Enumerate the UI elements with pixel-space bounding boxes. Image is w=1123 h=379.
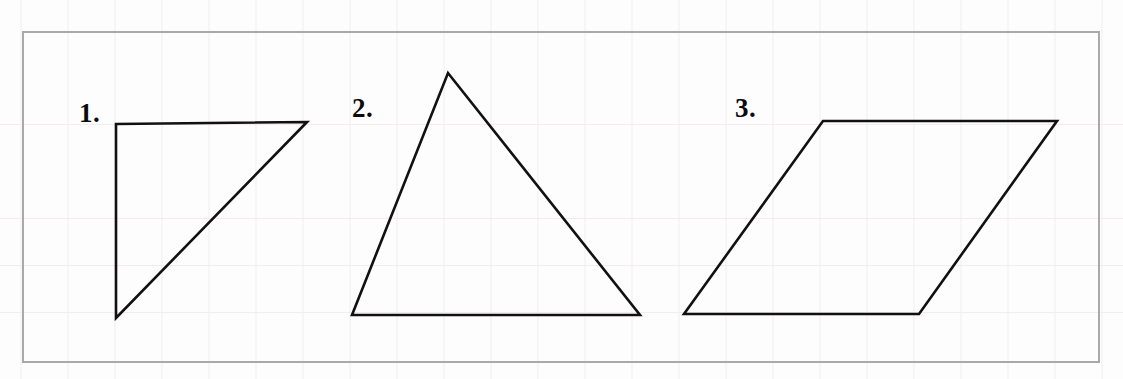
shapes-layer [0, 0, 1123, 379]
figure-2-triangle[interactable] [352, 73, 640, 315]
worksheet-page: 1. 2. 3. [0, 0, 1123, 379]
figure-1-label: 1. [79, 100, 100, 127]
figure-3-label: 3. [735, 95, 756, 122]
figure-1-right-triangle[interactable] [116, 122, 307, 318]
figure-2-label: 2. [352, 95, 373, 122]
figure-3-parallelogram[interactable] [684, 121, 1057, 314]
